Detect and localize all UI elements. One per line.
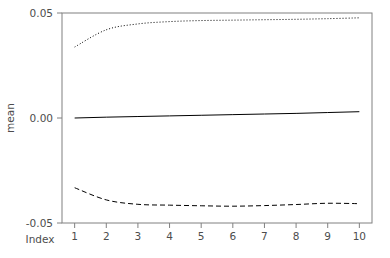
x-tick-label-3: 4 bbox=[166, 230, 173, 242]
x-tick-label-2: 3 bbox=[135, 230, 142, 242]
x-tick-label-4: 5 bbox=[198, 230, 205, 242]
y-axis-title: mean bbox=[4, 103, 16, 133]
x-tick-label-6: 7 bbox=[261, 230, 268, 242]
x-tick-label-9: 10 bbox=[353, 230, 366, 242]
x-axis-title: Index bbox=[26, 233, 55, 245]
x-tick-label-8: 9 bbox=[324, 230, 331, 242]
x-tick-label-7: 8 bbox=[293, 230, 300, 242]
x-tick-label-5: 6 bbox=[229, 230, 236, 242]
x-tick-label-0: 1 bbox=[71, 230, 78, 242]
y-tick-label-0: 0.05 bbox=[30, 7, 53, 19]
plot-canvas: 0.050.00-0.05 12345678910 Index mean bbox=[0, 0, 390, 258]
x-tick-label-1: 2 bbox=[103, 230, 110, 242]
chart-svg: 0.050.00-0.05 12345678910 Index mean bbox=[0, 0, 390, 258]
chart-background bbox=[0, 0, 390, 258]
y-tick-label-2: -0.05 bbox=[26, 217, 53, 229]
y-tick-label-1: 0.00 bbox=[30, 112, 53, 124]
